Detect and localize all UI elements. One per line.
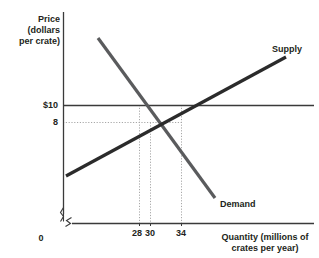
y-tick-label-8: 8 [28, 117, 58, 128]
y-tick-label-10: $10 [28, 100, 58, 111]
x-axis-break-icon [66, 218, 72, 227]
x-tick-label-30: 30 [139, 228, 161, 239]
x-tick-label-34: 34 [170, 228, 192, 239]
axis-break-marks [61, 208, 72, 227]
supply-curve [66, 57, 286, 176]
origin-label: 0 [36, 233, 46, 244]
demand-curve-label: Demand [220, 199, 266, 210]
y-axis-title: Price (dollars per crate) [2, 14, 60, 47]
x-axis-title: Quantity (millions of crates per year) [213, 232, 317, 254]
supply-curve-label: Supply [272, 44, 314, 55]
supply-demand-chart: Price (dollars per crate) Quantity (mill… [0, 0, 319, 258]
demand-curve [98, 38, 215, 198]
